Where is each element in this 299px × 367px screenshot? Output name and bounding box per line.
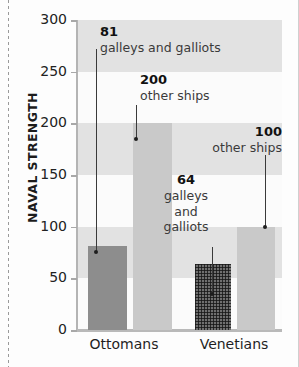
y-tick-label-100: 100 bbox=[21, 219, 67, 233]
y-tick-label-0: 0 bbox=[21, 322, 67, 336]
annotation-desc-2: and bbox=[150, 204, 222, 220]
leader-dot-200 bbox=[134, 137, 138, 141]
annotation-value: 64 bbox=[150, 172, 222, 188]
bar-venetians-galleys[interactable] bbox=[195, 264, 231, 330]
annotation-ottomans-galleys: 81 galleys and galliots bbox=[100, 24, 221, 56]
leader-line-64 bbox=[212, 247, 213, 294]
leader-line-100 bbox=[265, 155, 266, 227]
bar-venetians-other-ships[interactable] bbox=[237, 227, 275, 330]
page-right-rule bbox=[298, 0, 299, 367]
annotation-desc: galleys and galliots bbox=[100, 40, 221, 56]
y-tick-label-50: 50 bbox=[21, 270, 67, 284]
annotation-value: 200 bbox=[140, 72, 210, 88]
annotation-venetians-galleys: 64 galleys and galliots bbox=[150, 172, 222, 235]
annotation-value: 100 bbox=[186, 124, 282, 140]
y-axis-title: NAVAL STRENGTH bbox=[25, 78, 40, 238]
x-label-venetians: Venetians bbox=[186, 336, 282, 352]
page-fold-mark bbox=[8, 0, 9, 367]
x-label-ottomans: Ottomans bbox=[78, 336, 170, 352]
annotation-desc-3: galliots bbox=[150, 219, 222, 235]
chart-figure: NAVAL STRENGTH 300 250 200 150 100 50 0 … bbox=[0, 0, 299, 367]
y-tick-label-200: 200 bbox=[21, 115, 67, 129]
bar-ottomans-galleys[interactable] bbox=[88, 246, 127, 330]
annotation-desc-1: galleys bbox=[150, 188, 222, 204]
annotation-venetians-other-ships: 100 other ships bbox=[186, 124, 282, 156]
annotation-ottomans-other-ships: 200 other ships bbox=[140, 72, 210, 104]
leader-dot-100 bbox=[263, 225, 267, 229]
leader-line-200 bbox=[136, 105, 137, 139]
annotation-value: 81 bbox=[100, 24, 221, 40]
leader-dot-64 bbox=[210, 292, 214, 296]
annotation-desc: other ships bbox=[186, 140, 282, 156]
leader-line-81 bbox=[96, 49, 97, 252]
y-tick-0 bbox=[71, 330, 77, 332]
y-tick-label-250: 250 bbox=[21, 64, 67, 78]
leader-dot-81 bbox=[94, 250, 98, 254]
y-tick-label-300: 300 bbox=[21, 12, 67, 26]
annotation-desc: other ships bbox=[140, 88, 210, 104]
y-tick-label-150: 150 bbox=[21, 167, 67, 181]
